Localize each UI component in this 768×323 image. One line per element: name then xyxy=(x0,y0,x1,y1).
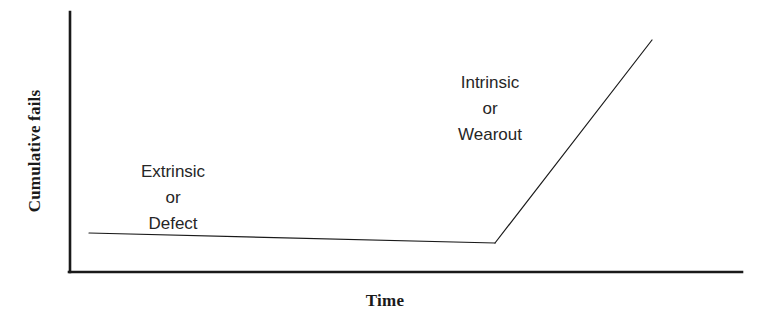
annotation-intrinsic-or-wearout: Intrinsic or Wearout xyxy=(458,70,522,148)
annotation-extrinsic-line-1: Extrinsic xyxy=(141,159,205,185)
annotation-intrinsic-line-3: Wearout xyxy=(458,122,522,148)
annotation-intrinsic-line-1: Intrinsic xyxy=(458,70,522,96)
chart-canvas xyxy=(0,0,768,323)
annotation-extrinsic-line-3: Defect xyxy=(141,211,205,237)
annotation-extrinsic-line-2: or xyxy=(141,185,205,211)
cumulative-fails-chart: Cumulative fails Time Extrinsic or Defec… xyxy=(0,0,768,323)
x-axis-title: Time xyxy=(366,291,404,311)
annotation-extrinsic-or-defect: Extrinsic or Defect xyxy=(141,159,205,237)
y-axis-title: Cumulative fails xyxy=(25,90,45,213)
annotation-intrinsic-line-2: or xyxy=(458,96,522,122)
